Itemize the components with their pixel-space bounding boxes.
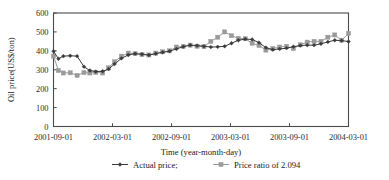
data-point-marker [56, 68, 60, 72]
data-point-marker [250, 41, 254, 45]
data-point-marker [219, 162, 223, 166]
legend-item-actual-price[interactable]: Actual price; [112, 160, 178, 170]
data-point-marker [326, 35, 330, 39]
data-point-marker [118, 163, 122, 167]
data-point-marker [346, 31, 350, 35]
data-point-marker [209, 39, 213, 43]
data-point-marker [347, 40, 351, 44]
data-point-marker [82, 70, 86, 74]
series-line [54, 39, 349, 72]
series-line [54, 32, 349, 76]
data-point-marker [312, 39, 316, 43]
y-axis-tick-labels: 0100200300400500600 [36, 9, 49, 132]
chart-figure: 0100200300400500600 2001-09-012002-03-01… [0, 0, 389, 180]
data-point-marker [61, 71, 65, 75]
oil-price-line-chart: 0100200300400500600 2001-09-012002-03-01… [0, 0, 389, 180]
x-tick-label: 2001-09-01 [34, 133, 73, 142]
x-tick-label: 2003-09-01 [270, 133, 309, 142]
x-axis-tick-labels: 2001-09-012002-03-012002-09-012003-03-01… [34, 133, 368, 142]
data-point-marker [223, 44, 227, 48]
data-point-marker [216, 35, 220, 39]
data-point-marker [326, 40, 330, 44]
x-tick-label: 2004-03-01 [329, 133, 368, 142]
legend-label: Price ratio of 2.094 [234, 160, 301, 170]
y-tick-label: 400 [36, 47, 49, 56]
data-point-marker [75, 73, 79, 77]
data-point-marker [223, 30, 227, 34]
data-point-marker [312, 43, 316, 47]
y-tick-label: 500 [36, 28, 49, 37]
data-point-marker [230, 41, 234, 45]
y-tick-label: 600 [36, 9, 49, 18]
x-tick-label: 2002-09-01 [152, 133, 191, 142]
data-point-marker [250, 38, 254, 42]
y-axis-title: Oil price(US$/ton) [6, 37, 16, 102]
data-point-marker [61, 54, 65, 58]
chart-legend: Actual price;Price ratio of 2.094 [112, 160, 301, 170]
y-tick-label: 100 [36, 104, 49, 113]
y-tick-label: 0 [44, 123, 48, 132]
data-point-marker [51, 54, 55, 58]
data-point-marker [216, 45, 220, 49]
plot-frame [54, 13, 349, 127]
data-point-marker [229, 34, 233, 38]
y-tick-label: 300 [36, 66, 49, 75]
y-tick-label: 200 [36, 85, 49, 94]
data-point-marker [333, 33, 337, 37]
x-tick-label: 2002-03-01 [93, 133, 132, 142]
data-point-marker [68, 71, 72, 75]
data-point-marker [68, 54, 72, 58]
data-point-marker [209, 45, 213, 49]
legend-item-price-ratio[interactable]: Price ratio of 2.094 [213, 160, 301, 170]
x-tick-label: 2003-03-01 [211, 133, 250, 142]
data-series-layer [51, 30, 350, 78]
data-point-marker [333, 38, 337, 42]
legend-label: Actual price; [133, 160, 178, 170]
x-axis-title: Time (year-month-day) [161, 147, 242, 157]
